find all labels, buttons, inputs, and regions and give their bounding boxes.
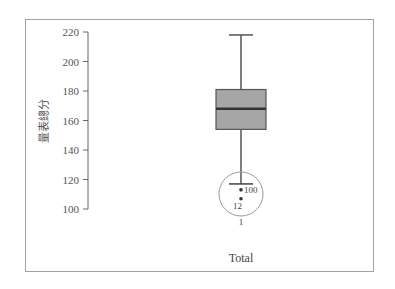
y-tick-label: 180 <box>63 85 80 97</box>
y-tick-label: 220 <box>63 26 80 38</box>
y-tick-label: 140 <box>63 144 80 156</box>
outlier-label: 100 <box>244 185 258 195</box>
y-tick-label: 100 <box>63 203 80 215</box>
y-tick-label: 160 <box>63 115 80 127</box>
outlier-point <box>239 188 243 192</box>
x-axis-label: Total <box>229 251 254 265</box>
circle-annotation-label: 1 <box>239 217 244 227</box>
y-tick-label: 120 <box>63 174 80 186</box>
outlier-label: 12 <box>233 201 242 211</box>
y-axis-label: 量表總分 <box>37 99 51 143</box>
boxplot-chart: 100120140160180200220 量表總分 100121 Total <box>0 0 395 289</box>
y-tick-label: 200 <box>63 56 80 68</box>
